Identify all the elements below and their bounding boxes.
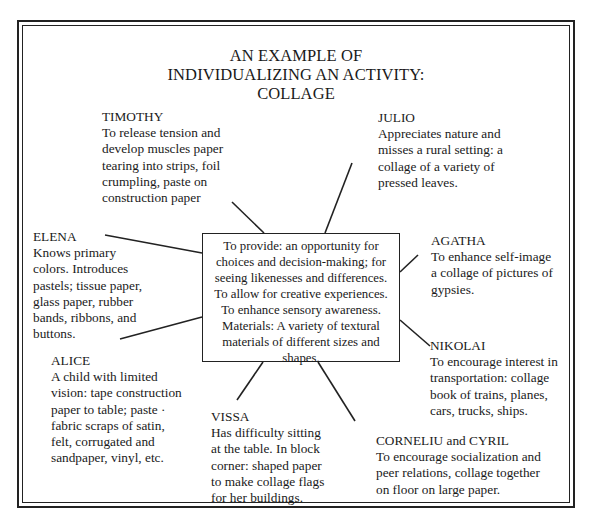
child-description: Appreciates nature and misses a rural se…: [378, 126, 503, 191]
child-vissa: VISSA Has difficulty sitting at the tabl…: [211, 409, 324, 506]
title-line-1: AN EXAMPLE OF: [0, 46, 592, 65]
child-name: ELENA: [33, 229, 142, 245]
connector-julio: [325, 163, 352, 233]
child-description: To release tension and develop muscles p…: [102, 125, 223, 206]
child-description: To enhance self-image a collage of pictu…: [431, 249, 553, 298]
child-description: To encourage interest in transportation:…: [430, 354, 558, 419]
child-agatha: AGATHA To enhance self-image a collage o…: [431, 233, 553, 298]
child-description: A child with limited vision: tape constr…: [51, 369, 182, 466]
connector-timothy: [232, 202, 264, 233]
child-name: NIKOLAI: [430, 338, 558, 354]
page-title: AN EXAMPLE OF INDIVIDUALIZING AN ACTIVIT…: [0, 46, 592, 103]
child-nikolai: NIKOLAI To encourage interest in transpo…: [430, 338, 558, 419]
connector-agatha: [400, 255, 418, 272]
child-name: CORNELIU and CYRIL: [376, 433, 541, 449]
title-line-2: INDIVIDUALIZING AN ACTIVITY:: [0, 65, 592, 84]
child-name: TIMOTHY: [102, 109, 223, 125]
child-name: ALICE: [51, 353, 182, 369]
child-name: JULIO: [378, 110, 503, 126]
child-julio: JULIO Appreciates nature and misses a ru…: [378, 110, 503, 191]
child-description: Has difficulty sitting at the table. In …: [211, 425, 324, 506]
child-name: VISSA: [211, 409, 324, 425]
child-corneliu-cyril: CORNELIU and CYRIL To encourage socializ…: [376, 433, 541, 498]
connector-vissa: [237, 362, 263, 400]
child-name: AGATHA: [431, 233, 553, 249]
title-line-3: COLLAGE: [0, 84, 592, 103]
child-alice: ALICE A child with limited vision: tape …: [51, 353, 182, 466]
child-timothy: TIMOTHY To release tension and develop m…: [102, 109, 223, 206]
child-elena: ELENA Knows primary colors. Introduces p…: [33, 229, 142, 342]
center-goals-box: To provide: an opportunity for choices a…: [202, 233, 400, 362]
child-description: To encourage socialization and peer rela…: [376, 449, 541, 498]
child-description: Knows primary colors. Introduces pastels…: [33, 245, 142, 342]
connector-nikolai: [400, 320, 430, 346]
